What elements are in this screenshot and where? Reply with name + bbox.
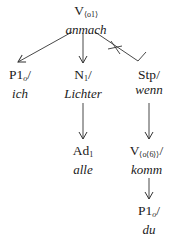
node-category: Ad1 [64,143,102,162]
node-word: komm [122,162,171,177]
node-stp: Stp/ wenn [128,67,170,97]
node-word: du [128,222,170,237]
node-p1: P1o/ ich [0,67,40,101]
node-word: alle [64,162,102,177]
node-category: P1o/ [0,67,40,86]
node-word: anmach [58,22,114,37]
node-p1-du: P1o/ du [128,203,170,237]
node-category: V⟨o⟨6⟩⟩/ [122,143,171,162]
node-word: ich [0,86,40,101]
node-category: P1o/ [128,203,170,222]
node-word: Lichter [60,86,106,101]
node-category: N1/ [60,67,106,86]
node-root: V⟨o1⟩ anmach [58,3,114,37]
node-category: V⟨o1⟩ [58,3,114,22]
node-n1: N1/ Lichter [60,67,106,101]
node-word: wenn [128,82,170,97]
node-category: Stp/ [128,67,170,82]
node-ad1: Ad1 alle [64,143,102,177]
node-v-komm: V⟨o⟨6⟩⟩/ komm [122,143,171,177]
